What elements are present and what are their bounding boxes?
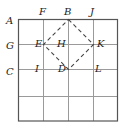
label-L: L (94, 63, 102, 74)
label-J: J (88, 6, 95, 17)
label-D: D (57, 63, 66, 74)
grid-diagram: A F B J G E H K C I D L (0, 0, 129, 131)
label-A: A (5, 15, 13, 26)
label-F: F (38, 6, 47, 17)
label-E: E (34, 38, 43, 49)
label-B: B (63, 6, 71, 17)
label-I: I (34, 63, 40, 74)
grid-lines (18, 19, 118, 121)
label-G: G (6, 40, 14, 51)
label-H: H (56, 38, 66, 49)
label-C: C (6, 66, 14, 77)
label-K: K (96, 38, 105, 49)
